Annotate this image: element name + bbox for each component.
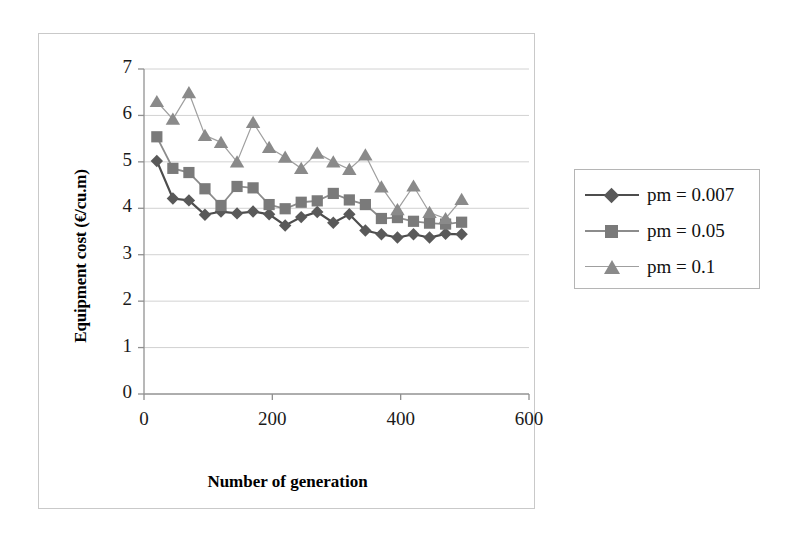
data-point-2-6 bbox=[246, 116, 260, 128]
data-point-2-7 bbox=[262, 141, 276, 153]
data-point-2-14 bbox=[374, 180, 388, 192]
data-point-2-19 bbox=[454, 193, 468, 205]
axis-ticks bbox=[138, 69, 529, 400]
x-tick-label: 400 bbox=[371, 408, 431, 430]
data-point-1-6 bbox=[247, 182, 258, 193]
y-tick-label: 1 bbox=[106, 335, 132, 357]
data-point-2-10 bbox=[310, 146, 324, 158]
data-point-1-2 bbox=[183, 167, 194, 178]
data-point-1-12 bbox=[344, 194, 355, 205]
legend-label: pm = 0.007 bbox=[647, 184, 734, 206]
data-point-0-10 bbox=[311, 206, 323, 218]
data-point-1-17 bbox=[424, 218, 435, 229]
data-point-1-9 bbox=[296, 197, 307, 208]
data-point-0-6 bbox=[247, 205, 259, 217]
y-tick-label: 5 bbox=[106, 149, 132, 171]
legend-swatch-triangle bbox=[583, 254, 641, 280]
diamond-marker-icon bbox=[604, 188, 620, 204]
data-point-1-19 bbox=[456, 217, 467, 228]
data-point-0-11 bbox=[327, 216, 339, 228]
data-point-2-4 bbox=[214, 136, 228, 148]
triangle-marker-icon bbox=[604, 260, 620, 274]
data-point-0-16 bbox=[407, 228, 419, 240]
series-line-2 bbox=[157, 93, 462, 219]
y-tick-label: 3 bbox=[106, 242, 132, 264]
data-point-0-17 bbox=[423, 231, 435, 243]
data-point-1-14 bbox=[376, 213, 387, 224]
data-point-2-0 bbox=[150, 95, 164, 107]
data-point-0-9 bbox=[295, 211, 307, 223]
data-point-1-10 bbox=[312, 195, 323, 206]
data-point-1-5 bbox=[231, 181, 242, 192]
data-point-1-16 bbox=[408, 216, 419, 227]
data-point-2-2 bbox=[182, 86, 196, 98]
data-point-1-1 bbox=[167, 163, 178, 174]
data-point-0-1 bbox=[167, 192, 179, 204]
data-point-1-4 bbox=[215, 200, 226, 211]
data-point-1-7 bbox=[264, 199, 275, 210]
data-point-0-0 bbox=[151, 155, 163, 167]
data-point-2-18 bbox=[438, 212, 452, 224]
data-point-2-13 bbox=[358, 148, 372, 160]
y-axis-title: Equipment cost (€/cu.m) bbox=[71, 126, 91, 386]
chart-plot-frame: 01234567 0200400600 Equipment cost (€/cu… bbox=[38, 33, 535, 509]
y-tick-label: 6 bbox=[106, 102, 132, 124]
chart-figure: 01234567 0200400600 Equipment cost (€/cu… bbox=[0, 0, 803, 543]
y-tick-label: 0 bbox=[106, 381, 132, 403]
y-tick-label: 4 bbox=[106, 195, 132, 217]
series-markers bbox=[150, 86, 469, 244]
data-point-0-15 bbox=[391, 231, 403, 243]
x-axis-title: Number of generation bbox=[39, 472, 536, 492]
y-tick-label: 7 bbox=[106, 56, 132, 78]
data-point-2-15 bbox=[390, 203, 404, 215]
y-tick-label: 2 bbox=[106, 288, 132, 310]
x-tick-label: 0 bbox=[114, 408, 174, 430]
legend-item-pm-005[interactable]: pm = 0.05 bbox=[583, 214, 725, 248]
x-tick-label: 200 bbox=[242, 408, 302, 430]
legend-item-pm-0007[interactable]: pm = 0.007 bbox=[583, 178, 734, 212]
legend-label: pm = 0.1 bbox=[647, 256, 715, 278]
legend-swatch-square bbox=[583, 218, 641, 244]
data-point-1-3 bbox=[199, 183, 210, 194]
data-point-2-16 bbox=[406, 179, 420, 191]
data-point-1-8 bbox=[280, 203, 291, 214]
axis-lines bbox=[144, 69, 529, 394]
data-point-0-5 bbox=[231, 207, 243, 219]
series-line-1 bbox=[157, 137, 462, 224]
chart-legend: pm = 0.007 pm = 0.05 pm = 0.1 bbox=[574, 169, 760, 289]
square-marker-icon bbox=[605, 225, 618, 238]
data-point-0-19 bbox=[455, 228, 467, 240]
data-point-2-8 bbox=[278, 151, 292, 163]
data-point-2-3 bbox=[198, 129, 212, 141]
legend-item-pm-01[interactable]: pm = 0.1 bbox=[583, 250, 715, 284]
legend-swatch-diamond bbox=[583, 182, 641, 208]
data-point-2-17 bbox=[422, 206, 436, 218]
data-point-1-13 bbox=[360, 199, 371, 210]
data-point-1-11 bbox=[328, 188, 339, 199]
data-point-1-0 bbox=[151, 131, 162, 142]
gridlines bbox=[144, 69, 529, 394]
legend-label: pm = 0.05 bbox=[647, 220, 725, 242]
data-point-0-14 bbox=[375, 228, 387, 240]
x-tick-label: 600 bbox=[499, 408, 559, 430]
